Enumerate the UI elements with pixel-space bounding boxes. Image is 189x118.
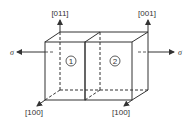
sigma-right: σ <box>178 48 183 57</box>
crystal-1-number: 1 <box>66 56 76 66</box>
label-100-right: [100] <box>112 108 130 117</box>
arrow-100-right-icon <box>124 100 132 106</box>
label-011: [011] <box>51 9 68 18</box>
arrow-100-left-icon <box>37 100 45 106</box>
svg-text:1: 1 <box>69 57 74 66</box>
label-100-left: [100] <box>25 108 43 117</box>
sigma-left: σ <box>10 48 15 57</box>
label-001: [001] <box>138 9 156 18</box>
crystal-2-number: 2 <box>110 56 120 66</box>
svg-text:2: 2 <box>113 57 118 66</box>
bicrystal-diagram: 1 2 [011] [001] [100] [100] σ σ <box>0 0 189 118</box>
